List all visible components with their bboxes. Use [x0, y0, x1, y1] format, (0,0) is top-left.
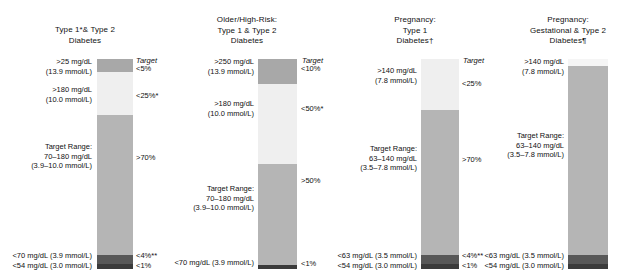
threshold-label-high: >140 mg/dL (7.8 mmol/L) — [339, 66, 417, 85]
header-line: Pregnancy: — [503, 15, 633, 26]
label-line: (7.8 mmol/L) — [485, 67, 564, 77]
target-pct-target-range: >70% — [136, 153, 155, 163]
segment-high — [97, 72, 133, 115]
segment-low — [421, 255, 459, 264]
column-header-older-high-risk: Older/High-Risk: Type 1 & Type 2 Diabete… — [188, 15, 306, 47]
segment-target-range — [97, 115, 133, 255]
threshold-label-high: >140 mg/dL (7.8 mmol/L) — [485, 57, 564, 76]
glucose-target-range-chart: Type 1*& Type 2 Diabetes Target >25 mg/d… — [0, 0, 643, 280]
segment-very-low — [421, 264, 459, 269]
label-line: Target Range: — [331, 144, 417, 154]
label-line: >250 mg/dL — [174, 57, 254, 67]
threshold-label-high: >180 mg/dL (10.0 mmol/L) — [174, 99, 254, 118]
threshold-label-low: <70 mg/dL (3.9 mmol/L) — [0, 251, 92, 261]
target-column-header: Target — [463, 56, 484, 66]
threshold-label-low: <63 mg/dL (3.5 mmol/L) — [473, 251, 564, 261]
threshold-label-very-high: >250 mg/dL (13.9 mmol/L) — [174, 57, 254, 76]
target-pct-very-low: <1% — [136, 261, 151, 271]
threshold-label-target-range: Target Range: 63–140 mg/dL (3.5–7.8 mmol… — [485, 131, 564, 160]
threshold-label-high: >180 mg/dL (10.0 mmol/L) — [8, 85, 92, 104]
chart-column-pregnancy-type1: Pregnancy: Type 1 Diabetes† Target >140 … — [325, 0, 485, 280]
target-pct-very-high: <5% — [136, 64, 151, 74]
label-line: >140 mg/dL — [339, 66, 417, 76]
segment-very-high — [97, 59, 133, 72]
label-line: (13.9 mmol/L) — [174, 67, 254, 77]
target-pct-very-high: <10% — [301, 64, 320, 74]
threshold-label-very-low: <54 mg/dL (3.0 mmol/L) — [325, 261, 417, 271]
label-line: Target Range: — [2, 142, 92, 152]
label-line: >180 mg/dL — [174, 99, 254, 109]
segment-very-low — [97, 264, 133, 269]
label-line: (3.9–10.0 mmol/L) — [166, 203, 254, 213]
threshold-label-target-range: Target Range: 70–180 mg/dL (3.9–10.0 mmo… — [2, 142, 92, 171]
segment-target-range — [421, 110, 459, 255]
label-line: <63 mg/dL (3.5 mmol/L) — [473, 251, 564, 261]
target-pct-high: <50%* — [301, 104, 323, 114]
segment-very-low — [568, 264, 608, 269]
label-line: (3.9–10.0 mmol/L) — [2, 161, 92, 171]
header-line: Diabetes — [30, 36, 140, 47]
label-line: (13.9 mmol/L) — [8, 67, 92, 77]
label-line: (10.0 mmol/L) — [174, 109, 254, 119]
label-line: Target Range: — [166, 184, 254, 194]
label-line: <63 mg/dL (3.5 mmol/L) — [325, 251, 417, 261]
threshold-label-very-high: >25 mg/dL (13.9 mmol/L) — [8, 57, 92, 76]
threshold-label-very-low: <54 mg/dL (3.0 mmol/L) — [473, 261, 564, 271]
threshold-label-target-range: Target Range: 63–140 mg/dL (3.5–7.8 mmol… — [331, 144, 417, 173]
label-line: (7.8 mmol/L) — [339, 76, 417, 86]
segment-low — [97, 255, 133, 264]
header-line: Type 1 — [365, 26, 465, 37]
label-line: (3.5–7.8 mmol/L) — [331, 163, 417, 173]
segment-high — [568, 59, 608, 66]
segment-very-high — [258, 59, 297, 84]
target-pct-low: <4%** — [136, 251, 157, 261]
label-line: Target Range: — [485, 131, 564, 141]
segment-low — [568, 255, 608, 264]
segment-high — [258, 84, 297, 164]
target-pct-target-range: >70% — [462, 155, 481, 165]
chart-column-type1-type2: Type 1*& Type 2 Diabetes Target >25 mg/d… — [0, 0, 160, 280]
segment-target-range — [258, 164, 297, 265]
header-line: Older/High-Risk: — [188, 15, 306, 26]
label-line: 70–180 mg/dL — [2, 152, 92, 162]
stacked-bar-pregnancy-gdm-type2 — [568, 59, 608, 269]
label-line: 63–140 mg/dL — [485, 141, 564, 151]
label-line: <70 mg/dL (3.9 mmol/L) — [0, 251, 92, 261]
label-line: >140 mg/dL — [485, 57, 564, 67]
target-pct-high: <25%* — [136, 91, 158, 101]
header-line: Gestational & Type 2 — [503, 26, 633, 37]
label-line: 70–180 mg/dL — [166, 194, 254, 204]
label-line: >25 mg/dL — [8, 57, 92, 67]
label-line: 63–140 mg/dL — [331, 154, 417, 164]
label-line: <54 mg/dL (3.0 mmol/L) — [473, 261, 564, 271]
label-line: (10.0 mmol/L) — [8, 95, 92, 105]
column-header-type1-type2: Type 1*& Type 2 Diabetes — [30, 25, 140, 46]
header-line: Type 1 & Type 2 — [188, 26, 306, 37]
column-header-pregnancy-gdm-type2: Pregnancy: Gestational & Type 2 Diabetes… — [503, 15, 633, 47]
segment-high — [421, 59, 459, 110]
header-line: Diabetes — [188, 36, 306, 47]
segment-target-range — [568, 66, 608, 255]
threshold-label-low: <70 mg/dL (3.9 mmol/L) — [160, 258, 254, 268]
chart-column-pregnancy-gdm-type2: Pregnancy: Gestational & Type 2 Diabetes… — [485, 0, 643, 280]
label-line: >180 mg/dL — [8, 85, 92, 95]
label-line: <54 mg/dL (3.0 mmol/L) — [325, 261, 417, 271]
header-line: Diabetes† — [365, 36, 465, 47]
threshold-label-target-range: Target Range: 70–180 mg/dL (3.9–10.0 mmo… — [166, 184, 254, 213]
stacked-bar-pregnancy-type1 — [421, 59, 459, 269]
chart-column-older-high-risk: Older/High-Risk: Type 1 & Type 2 Diabete… — [160, 0, 325, 280]
header-line: Type 1*& Type 2 — [30, 25, 140, 36]
stacked-bar-older-high-risk — [258, 59, 297, 269]
threshold-label-low: <63 mg/dL (3.5 mmol/L) — [325, 251, 417, 261]
threshold-label-very-low: <54 mg/dL (3.0 mmol/L) — [0, 261, 92, 271]
segment-low — [258, 265, 297, 269]
label-line: <54 mg/dL (3.0 mmol/L) — [0, 261, 92, 271]
target-pct-high: <25% — [462, 79, 481, 89]
header-line: Pregnancy: — [365, 15, 465, 26]
header-line: Diabetes¶ — [503, 36, 633, 47]
stacked-bar-type1-type2 — [97, 59, 133, 269]
column-header-pregnancy-type1: Pregnancy: Type 1 Diabetes† — [365, 15, 465, 47]
label-line: (3.5–7.8 mmol/L) — [485, 150, 564, 160]
target-pct-target-range: >50% — [301, 176, 320, 186]
target-pct-low: <1% — [301, 259, 316, 269]
